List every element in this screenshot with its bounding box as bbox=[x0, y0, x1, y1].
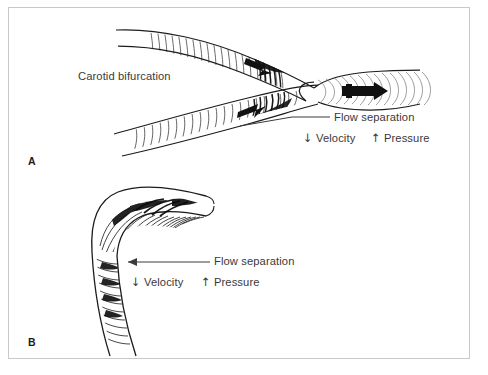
pressure-label-a: Pressure bbox=[384, 132, 430, 144]
velocity-annotation-a: ↓ Velocity bbox=[303, 131, 355, 145]
pressure-annotation-a: ↑ Pressure bbox=[371, 131, 430, 145]
velocity-down-arrow-icon-a: ↓ bbox=[303, 131, 313, 145]
bifurcation-apex bbox=[299, 70, 430, 110]
figure-root: Carotid bifurcation Flow separation ↓ Ve… bbox=[0, 0, 488, 375]
internal-carotid-streamlines bbox=[150, 26, 286, 96]
panel-letter-a: A bbox=[28, 155, 36, 167]
illustration-canvas bbox=[0, 0, 488, 375]
curved-vessel-streamlines bbox=[100, 198, 206, 254]
flow-separation-leader-a bbox=[240, 117, 330, 126]
flow-separation-label-b: Flow separation bbox=[214, 255, 294, 267]
pressure-up-arrow-icon-a: ↑ bbox=[371, 131, 381, 145]
panel-b-artwork bbox=[92, 187, 214, 356]
velocity-label-b: Velocity bbox=[144, 276, 183, 288]
velocity-down-arrow-icon-b: ↓ bbox=[131, 275, 141, 289]
flow-separation-leader-b bbox=[128, 258, 210, 266]
flow-separation-label-a: Flow separation bbox=[334, 111, 414, 123]
pressure-up-arrow-icon-b: ↑ bbox=[201, 275, 211, 289]
pressure-annotation-b: ↑ Pressure bbox=[201, 275, 260, 289]
velocity-annotation-b: ↓ Velocity bbox=[131, 275, 183, 289]
descending-limb-streamlines bbox=[94, 258, 130, 344]
flow-arrow-external-carotid bbox=[237, 104, 266, 118]
pressure-label-b: Pressure bbox=[214, 276, 260, 288]
velocity-label-a: Velocity bbox=[316, 132, 355, 144]
carotid-bifurcation-label: Carotid bifurcation bbox=[78, 70, 171, 82]
external-carotid-branch bbox=[114, 85, 318, 158]
panel-letter-b: B bbox=[28, 336, 36, 348]
